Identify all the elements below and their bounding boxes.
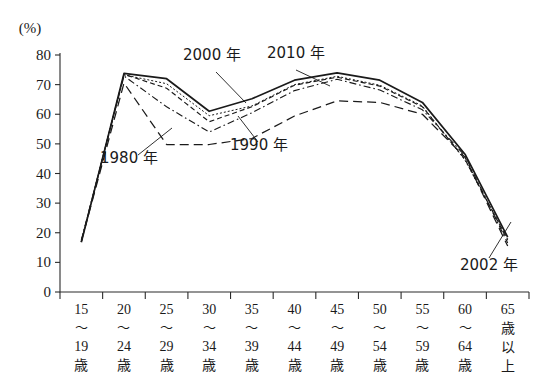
x-axis-label-part: 55	[415, 302, 429, 317]
x-axis-label-part: 歳	[415, 357, 429, 373]
x-axis-label-part: 49	[330, 339, 344, 354]
x-axis-label-group: 25～29歳	[160, 302, 174, 373]
x-axis-label-part: 歳	[458, 357, 472, 373]
x-axis-label-part: 44	[288, 339, 302, 354]
y-tick-label: 0	[44, 284, 52, 300]
x-axis-label-part: 59	[415, 339, 429, 354]
x-axis-label-part: 歳	[330, 357, 344, 373]
x-axis-label-group: 30～34歳	[202, 302, 216, 373]
x-axis-label-part: 歳	[373, 357, 387, 373]
y-tick-label: 80	[36, 47, 51, 63]
x-axis-label-part: 50	[373, 302, 387, 317]
x-axis-label-part: 35	[245, 302, 259, 317]
label-2010: 2010 年	[267, 44, 325, 62]
x-axis-label-part: ～	[373, 320, 386, 335]
y-tick-label: 20	[36, 225, 51, 241]
label-1980: 1980 年	[100, 149, 158, 167]
x-axis-label-part: 29	[160, 339, 174, 354]
y-tick-label: 60	[36, 106, 51, 122]
x-axis-label-part: 30	[202, 302, 216, 317]
x-axis-label-part: 20	[117, 302, 131, 317]
x-axis-label-part: 19	[74, 339, 88, 354]
x-axis-label-part: ～	[288, 320, 301, 335]
chart-container: 01020304050607080(%)15～19歳20～24歳25～29歳30…	[0, 0, 550, 381]
x-axis-label-group: 35～39歳	[245, 302, 259, 373]
x-axis-label-part: 65	[501, 302, 515, 317]
x-axis-label-part: 歳	[501, 320, 515, 336]
x-axis-label-group: 45～49歳	[330, 302, 344, 373]
x-axis-label-part: 64	[458, 339, 472, 354]
x-axis-label-part: 15	[74, 302, 88, 317]
x-axis-label-part: 60	[458, 302, 472, 317]
x-axis-label-part: ～	[245, 320, 258, 335]
x-axis-label-part: ～	[160, 320, 173, 335]
y-tick-label: 50	[36, 136, 51, 152]
y-axis-unit-label: (%)	[19, 20, 42, 37]
x-axis-label-part: 40	[288, 302, 302, 317]
chart-axes	[60, 53, 529, 292]
x-axis-label-part: 上	[501, 358, 515, 374]
label-1990: 1990 年	[230, 136, 288, 154]
x-axis-label-part: 54	[373, 339, 387, 354]
x-axis-label-part: 45	[330, 302, 344, 317]
x-axis-label-part: 歳	[288, 357, 302, 373]
x-axis-label-part: 歳	[245, 357, 259, 373]
y-tick-label: 10	[36, 254, 51, 270]
x-axis-label-part: ～	[117, 320, 130, 335]
x-axis-label-part: 25	[160, 302, 174, 317]
x-axis-label-group: 40～44歳	[288, 302, 302, 373]
line-chart: 01020304050607080(%)15～19歳20～24歳25～29歳30…	[0, 0, 550, 381]
y-tick-label: 40	[36, 166, 51, 182]
x-axis-label-part: 24	[117, 339, 131, 354]
x-axis-label-group: 20～24歳	[117, 302, 131, 373]
x-axis-label-part: ～	[203, 320, 216, 335]
x-axis-label-part: ～	[75, 320, 88, 335]
x-axis-label-part: 39	[245, 339, 259, 354]
x-axis-label-part: 歳	[160, 357, 174, 373]
x-axis-label-part: ～	[459, 320, 472, 335]
x-axis-label-group: 55～59歳	[415, 302, 429, 373]
x-axis-label-part: 歳	[202, 357, 216, 373]
label-2002: 2002 年	[460, 256, 518, 274]
x-axis-label-part: 以	[501, 339, 515, 355]
x-axis-label-part: 34	[202, 339, 216, 354]
x-axis-label-part: ～	[416, 320, 429, 335]
x-axis-label-group: 15～19歳	[74, 302, 88, 373]
label-2000: 2000 年	[183, 46, 241, 64]
label-2000-leader-line	[216, 72, 246, 103]
x-axis-label-group: 65歳以上	[501, 302, 515, 374]
x-axis-label-part: 歳	[117, 357, 131, 373]
y-tick-label: 70	[36, 77, 51, 93]
x-axis-label-part: 歳	[74, 357, 88, 373]
x-axis-label-part: ～	[331, 320, 344, 335]
x-axis-label-group: 50～54歳	[373, 302, 387, 373]
x-axis-label-group: 60～64歳	[458, 302, 472, 373]
y-tick-label: 30	[36, 195, 51, 211]
